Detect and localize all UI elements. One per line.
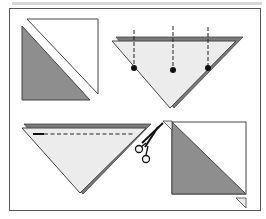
corner-tab-top (163, 121, 172, 130)
pin-right-icon (205, 65, 211, 71)
folding-diagram (0, 0, 266, 219)
pin-left-icon (131, 65, 137, 71)
pin-center-icon (170, 67, 176, 73)
corner-tab-bottom (236, 198, 246, 208)
step-4-unfolded-square (163, 121, 246, 208)
front-layer (22, 128, 146, 193)
step-3-cut-triangle (22, 123, 163, 194)
top-strip (12, 2, 262, 5)
step-1-split-square (22, 19, 98, 100)
step-2-folded-triangle (112, 26, 243, 108)
front-layer (112, 41, 236, 108)
